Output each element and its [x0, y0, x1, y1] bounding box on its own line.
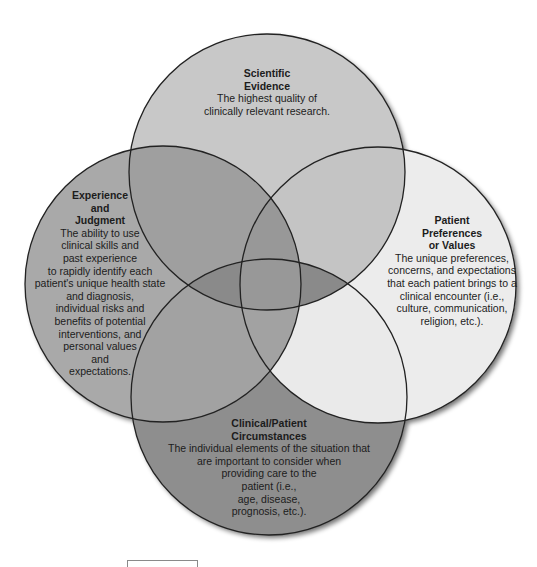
footer-rule-box — [127, 560, 198, 567]
title-scientific-evidence: Scientific Evidence — [187, 67, 347, 92]
label-patient-preferences: Patient Preferences or Values The unique… — [372, 214, 532, 327]
label-scientific-evidence: Scientific Evidence The highest quality … — [187, 67, 347, 117]
desc-patient-preferences: The unique preferences, concerns, and ex… — [372, 252, 532, 328]
label-experience-judgment: Experience and Judgment The ability to u… — [20, 189, 180, 378]
desc-scientific-evidence: The highest quality of clinically releva… — [187, 92, 347, 117]
label-clinical-circumstances: Clinical/Patient Circumstances The indiv… — [164, 417, 374, 518]
title-experience-judgment: Experience and Judgment — [20, 189, 180, 227]
title-patient-preferences: Patient Preferences or Values — [372, 214, 532, 252]
desc-clinical-circumstances: The individual elements of the situation… — [164, 442, 374, 518]
desc-experience-judgment: The ability to use clinical skills and p… — [20, 227, 180, 378]
title-clinical-circumstances: Clinical/Patient Circumstances — [164, 417, 374, 442]
